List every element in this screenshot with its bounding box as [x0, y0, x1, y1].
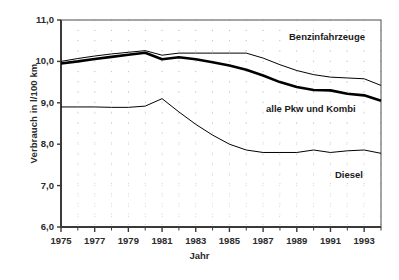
y-tick-label: 11,0 [16, 14, 54, 25]
benzinfahrzeuge-label: Benzinfahrzeuge [289, 31, 365, 42]
y-tick-label: 9,0 [16, 97, 54, 108]
diesel-label: Diesel [335, 169, 363, 180]
series-lines [61, 51, 381, 154]
gridlines [61, 20, 381, 227]
x-tick-label: 1993 [344, 235, 384, 246]
y-tick-label: 10,0 [16, 55, 54, 66]
axis-ticks [57, 20, 381, 232]
y-tick-label: 8,0 [16, 138, 54, 149]
alle-pkw-label: alle Pkw und Kombi [266, 103, 356, 114]
series-line-1 [61, 53, 381, 101]
plot-frame [61, 20, 381, 227]
y-tick-label: 7,0 [16, 180, 54, 191]
x-axis-title: Jahr [0, 250, 399, 261]
y-axis-title: Verbrauch in l/100 km [28, 29, 39, 199]
y-tick-label: 6,0 [16, 221, 54, 232]
consumption-line-chart: Verbrauch in l/100 km 6,07,08,09,010,011… [0, 0, 399, 280]
